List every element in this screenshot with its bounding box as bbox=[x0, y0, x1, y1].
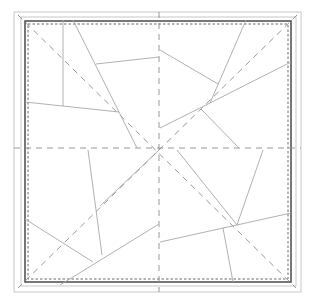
diagram-canvas bbox=[0, 0, 312, 298]
crease-bl-bottom-slant bbox=[60, 224, 159, 285]
crease-lines bbox=[25, 20, 291, 285]
crease-tl-upper-horizontal bbox=[96, 57, 159, 64]
crease-tr-long-slant bbox=[210, 20, 246, 103]
crease-br-horizontal bbox=[160, 213, 291, 242]
crease-tr-lower-slant bbox=[201, 109, 239, 148]
crease-pattern-diagram bbox=[0, 0, 312, 298]
crease-tl-long-slant bbox=[73, 20, 137, 148]
crease-tr-upper bbox=[160, 50, 218, 84]
crease-tr-center-left bbox=[160, 104, 208, 128]
crease-bl-diagonal-solid bbox=[100, 150, 159, 206]
crease-br-vertical bbox=[223, 228, 233, 282]
crease-tl-lower-horizontal bbox=[25, 102, 119, 112]
crease-br-long-slant bbox=[177, 150, 237, 225]
crease-tr-right-to-center bbox=[208, 62, 291, 104]
crease-bl-left-slant bbox=[25, 219, 93, 262]
crease-bl-vertical bbox=[88, 150, 102, 255]
crease-br-upper bbox=[237, 150, 263, 225]
